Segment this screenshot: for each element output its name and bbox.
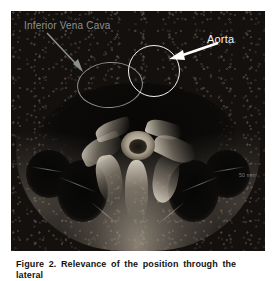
- inferior-vena-cava-arrow-icon: [45, 31, 91, 77]
- aorta-label: Aorta: [207, 33, 234, 45]
- spinous-process: [125, 160, 148, 222]
- scale-bar-label: 50 mm: [239, 172, 256, 178]
- figure-caption: Figure 2. Relevance of the position thro…: [16, 259, 266, 281]
- inferior-vena-cava-label: Inferior Vena Cava: [24, 20, 110, 31]
- mri-scan-image: Inferior Vena Cava Aorta 50 mm: [11, 11, 265, 251]
- spinal-canal: [129, 139, 147, 153]
